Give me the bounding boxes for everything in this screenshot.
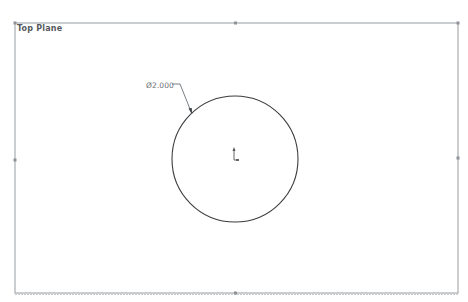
plane-handle-top-right[interactable]	[457, 22, 460, 25]
plane-handle-top-mid[interactable]	[234, 22, 237, 25]
origin-icon	[233, 147, 240, 161]
plane-handle-left-mid[interactable]	[14, 159, 17, 162]
graphics-area[interactable]: Top Plane Ø2.000	[0, 0, 468, 302]
plane-handle-right-mid[interactable]	[457, 157, 460, 160]
plane-label: Top Plane	[17, 24, 62, 33]
plane-handle-bottom-mid[interactable]	[234, 292, 237, 295]
sketch-canvas[interactable]	[0, 0, 468, 302]
diameter-dimension[interactable]: Ø2.000	[146, 81, 174, 90]
dimension-arrow-icon	[189, 108, 193, 114]
sketch-circle[interactable]	[172, 96, 298, 222]
top-plane-frame[interactable]	[15, 23, 458, 293]
dimension-leader-line[interactable]	[172, 84, 192, 114]
